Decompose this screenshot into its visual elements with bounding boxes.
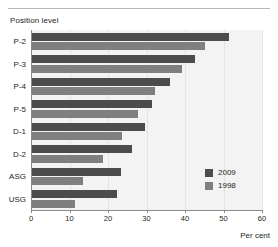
x-tick-60	[262, 210, 263, 213]
bar-p-3-1998	[31, 65, 182, 73]
legend-label-1998: 1998	[218, 181, 236, 190]
category-label-p-4: P-4	[0, 82, 26, 91]
legend-item-2009: 2009	[205, 168, 236, 177]
x-tick-20	[108, 210, 109, 213]
x-tick-40	[185, 210, 186, 213]
legend-swatch-1998	[205, 182, 213, 190]
x-axis-title: Per cent	[240, 231, 270, 240]
bar-p-4-1998	[31, 87, 155, 95]
x-tick-label-20: 20	[104, 214, 112, 223]
legend-label-2009: 2009	[218, 168, 236, 177]
x-tick-label-40: 40	[181, 214, 189, 223]
bar-asg-1998	[31, 177, 83, 185]
x-tick-50	[224, 210, 225, 213]
legend-item-1998: 1998	[205, 181, 236, 190]
x-tick-label-0: 0	[29, 214, 33, 223]
bar-p-4-2009	[31, 78, 170, 86]
x-tick-label-10: 10	[65, 214, 73, 223]
category-label-asg: ASG	[0, 172, 26, 181]
x-tick-label-30: 30	[142, 214, 150, 223]
bar-p-5-1998	[31, 110, 138, 118]
legend-swatch-2009	[205, 169, 213, 177]
chart-plot-wrapper: P-2P-3P-4P-5D-1D-2ASGUSG 0102030405060 P…	[0, 0, 278, 247]
bar-d-2-2009	[31, 145, 132, 153]
category-label-p-2: P-2	[0, 37, 26, 46]
bar-p-2-2009	[31, 33, 229, 41]
category-label-p-5: P-5	[0, 104, 26, 113]
bar-d-2-1998	[31, 155, 103, 163]
bar-usg-1998	[31, 200, 75, 208]
x-tick-10	[70, 210, 71, 213]
category-label-usg: USG	[0, 194, 26, 203]
bar-usg-2009	[31, 190, 117, 198]
category-label-d-1: D-1	[0, 127, 26, 136]
chart-legend: 2009 1998	[205, 168, 236, 194]
x-tick-30	[147, 210, 148, 213]
x-tick-0	[31, 210, 32, 213]
x-tick-label-50: 50	[219, 214, 227, 223]
y-axis-line	[31, 30, 32, 210]
bar-p-5-2009	[31, 100, 152, 108]
bar-asg-2009	[31, 168, 121, 176]
category-label-d-2: D-2	[0, 149, 26, 158]
x-tick-label-60: 60	[258, 214, 266, 223]
bar-d-1-2009	[31, 123, 145, 131]
gridline-60	[262, 30, 263, 210]
bar-p-2-1998	[31, 42, 205, 50]
bar-p-3-2009	[31, 55, 195, 63]
bar-d-1-1998	[31, 132, 122, 140]
category-label-p-3: P-3	[0, 59, 26, 68]
